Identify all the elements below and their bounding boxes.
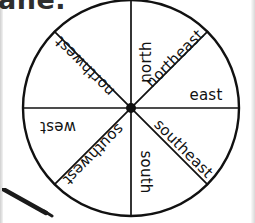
scanned-page: ane. north northeast east southeast sout… <box>0 0 255 223</box>
pencil-tip <box>44 211 52 216</box>
pencil-body <box>3 189 46 213</box>
compass-center-dot <box>126 103 136 113</box>
sector-label-west: west <box>40 118 76 136</box>
sector-label-east: east <box>190 86 223 104</box>
pencil-marker-icon <box>2 188 54 218</box>
sector-label-south: south <box>137 151 155 194</box>
